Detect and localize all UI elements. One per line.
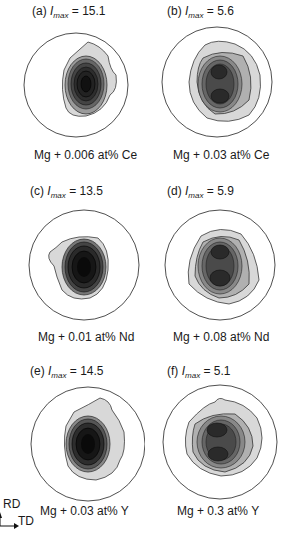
- rd-label: RD: [3, 497, 20, 511]
- panel-b: (b) Imax = 5.6 Mg + 0.03 at% Ce: [145, 0, 290, 180]
- panel-caption: Mg + 0.3 at% Y: [177, 504, 259, 518]
- rd-td-axes: RD TD: [0, 490, 60, 547]
- panel-a: (a) Imax = 15.1 Mg + 0.006 at% Ce: [0, 0, 145, 180]
- panel-caption: Mg + 0.01 at% Nd: [38, 330, 134, 344]
- panel-caption: Mg + 0.006 at% Ce: [34, 148, 137, 162]
- td-label: TD: [18, 514, 34, 528]
- panel-f: (f) Imax = 5.1 Mg + 0.3 at% Y: [145, 360, 290, 540]
- panel-caption: Mg + 0.03 at% Ce: [173, 148, 269, 162]
- panel-d: (d) Imax = 5.9 Mg + 0.08 at% Nd: [145, 180, 290, 360]
- panel-caption: Mg + 0.08 at% Nd: [173, 330, 269, 344]
- panel-c: (c) Imax = 13.5 Mg + 0.01 at% Nd: [0, 180, 145, 360]
